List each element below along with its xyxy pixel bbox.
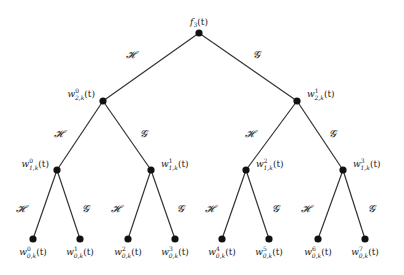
tree-node-w0-1: [76, 235, 83, 242]
node-label-w1-0: w01,k(t): [21, 157, 49, 171]
tree-node-w1-2: [242, 166, 249, 173]
tree-edge-w2-1-w1-3: [297, 101, 343, 170]
tree-edge-w1-0-w0-1: [57, 170, 80, 239]
node-label-w2-0: w02,k(t): [67, 87, 95, 101]
node-label-w0-7: w70,k(t): [351, 245, 379, 259]
node-label-w0-6: w60,k(t): [304, 245, 332, 259]
edge-label-h: 𝓗: [205, 203, 218, 214]
tree-node-w1-1: [147, 166, 154, 173]
tree-edge-w1-2-w0-4: [222, 170, 246, 239]
tree-node-w0-0: [29, 235, 36, 242]
tree-node-w0-3: [171, 235, 178, 242]
node-label-w0-3: w30,k(t): [161, 245, 189, 259]
tree-edge-w1-0-w0-0: [33, 170, 57, 239]
edge-label-h: 𝓗: [245, 128, 258, 139]
edge-label-g: 𝓖: [272, 203, 281, 214]
node-label-root: f3(t): [189, 17, 208, 28]
edge-label-h: 𝓗: [16, 203, 29, 214]
tree-node-w2-0: [99, 97, 106, 104]
tree-node-w0-7: [361, 235, 368, 242]
tree-edge-w1-3-w0-6: [318, 170, 343, 239]
tree-node-w1-3: [339, 166, 346, 173]
tree-edge-labels: 𝓗𝓖𝓗𝓖𝓗𝓖𝓗𝓖𝓗𝓖𝓗𝓖𝓗𝓖: [16, 49, 377, 214]
tree-node-w1-0: [53, 166, 60, 173]
tree-node-w0-5: [265, 235, 272, 242]
edge-label-h: 𝓗: [54, 128, 67, 139]
tree-edge-w1-3-w0-7: [343, 170, 365, 239]
tree-edge-w2-0-w1-0: [57, 101, 103, 170]
node-label-w1-3: w31,k(t): [353, 157, 381, 171]
edge-label-g: 𝓖: [329, 128, 338, 139]
tree-node-w0-2: [124, 235, 131, 242]
node-label-w1-2: w21,k(t): [256, 157, 284, 171]
edge-label-g: 𝓖: [253, 49, 262, 60]
tree-edge-root-w2-0: [103, 33, 199, 101]
tree-edge-root-w2-1: [199, 33, 297, 101]
node-label-w0-5: w50,k(t): [255, 245, 283, 259]
node-label-w1-1: w11,k(t): [161, 157, 189, 171]
tree-edge-w1-1-w0-3: [151, 170, 175, 239]
edge-label-g: 𝓖: [82, 203, 91, 214]
node-label-w0-4: w40,k(t): [208, 245, 236, 259]
tree-node-w0-4: [218, 235, 225, 242]
tree-edge-w1-2-w0-5: [246, 170, 269, 239]
tree-node-w0-6: [314, 235, 321, 242]
tree-node-labels: f3(t)w02,k(t)w12,k(t)w01,k(t)w11,k(t)w21…: [19, 17, 380, 259]
edge-label-h: 𝓗: [126, 49, 139, 60]
edge-label-h: 𝓗: [111, 203, 124, 214]
node-label-w0-1: w10,k(t): [66, 245, 94, 259]
tree-node-w2-1: [293, 97, 300, 104]
tree-edge-w2-1-w1-2: [246, 101, 297, 170]
wavelet-packet-tree: 𝓗𝓖𝓗𝓖𝓗𝓖𝓗𝓖𝓗𝓖𝓗𝓖𝓗𝓖 f3(t)w02,k(t)w12,k(t)w01,…: [0, 0, 404, 275]
node-label-w0-0: w00,k(t): [19, 245, 47, 259]
tree-edge-w1-1-w0-2: [128, 170, 151, 239]
tree-node-root: [195, 29, 202, 36]
edge-label-h: 𝓗: [301, 203, 314, 214]
edge-label-g: 𝓖: [140, 128, 149, 139]
edge-label-g: 𝓖: [368, 203, 377, 214]
node-label-w2-1: w12,k(t): [307, 87, 335, 101]
edge-label-g: 𝓖: [177, 203, 186, 214]
node-label-w0-2: w20,k(t): [114, 245, 142, 259]
